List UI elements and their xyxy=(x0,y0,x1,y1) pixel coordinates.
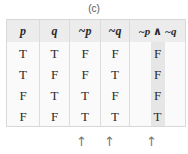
arrow-up-icon: ↑ xyxy=(76,134,87,149)
arrow-up-icon: ↑ xyxy=(104,134,115,149)
cell: T xyxy=(7,43,39,64)
column-not-q: ~q F T F T xyxy=(101,20,130,126)
cell: F xyxy=(7,85,39,106)
header-not-q: ~q xyxy=(101,20,129,42)
column-q: q T F T F xyxy=(40,20,70,126)
cell: T xyxy=(101,64,129,85)
cell: T xyxy=(70,106,100,127)
header-q: q xyxy=(40,20,69,42)
arrow-up-icon: ↑ xyxy=(146,134,157,149)
cell: F xyxy=(7,106,39,127)
truth-table: p T T F F q T F T F ~p F F T T ~q F T F … xyxy=(6,19,186,127)
cell: T xyxy=(101,106,129,127)
header-not-p: ~p xyxy=(70,20,100,42)
cell: F xyxy=(40,64,69,85)
cell: F xyxy=(40,106,69,127)
cell: T xyxy=(70,85,100,106)
cell: F xyxy=(70,43,100,64)
cell: T xyxy=(7,64,39,85)
column-not-p: ~p F F T T xyxy=(70,20,101,126)
cell: F xyxy=(130,64,185,85)
cell: F xyxy=(70,64,100,85)
cell: T xyxy=(40,43,69,64)
column-p: p T T F F xyxy=(7,20,40,126)
figure-caption: (c) xyxy=(0,3,188,14)
cell: F xyxy=(101,85,129,106)
header-not-p-and-not-q: ~p ∧ ~q xyxy=(130,20,185,42)
column-not-p-and-not-q: ~p ∧ ~q F F F T xyxy=(130,20,185,126)
cell: F xyxy=(130,85,185,106)
cell: F xyxy=(130,43,185,64)
header-p: p xyxy=(7,20,39,42)
cell: T xyxy=(130,106,185,127)
cell: T xyxy=(40,85,69,106)
cell: F xyxy=(101,43,129,64)
